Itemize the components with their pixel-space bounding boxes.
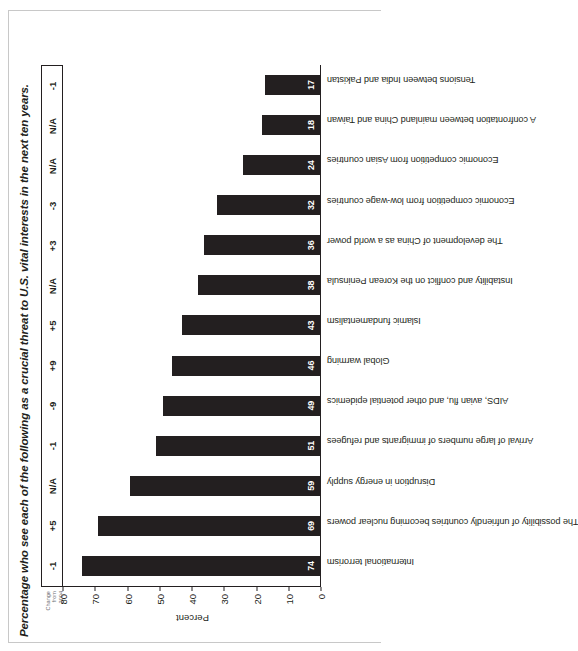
category-label: The possibility of unfriendly countries …: [327, 516, 578, 526]
bar-value-label: 49: [306, 395, 316, 415]
bar-slot: 43: [63, 305, 320, 345]
bar-slot: 36: [63, 225, 320, 265]
bar-slot: 32: [63, 185, 320, 225]
change-value-cell: -3: [42, 186, 62, 226]
category-label: Islamic fundamentalism: [327, 315, 421, 325]
y-axis-title-label: Percent: [175, 613, 208, 624]
axis-tick-mark: [94, 587, 95, 591]
bar-value-label: 38: [306, 275, 316, 295]
bar-value-label: 18: [306, 115, 316, 135]
bar-value-label: 36: [306, 235, 316, 255]
axis-tick-mark: [256, 587, 257, 591]
category-slot: International terrorism: [325, 546, 377, 586]
bar: 18: [262, 115, 320, 135]
bar: 46: [172, 355, 320, 375]
bar: 59: [130, 475, 320, 495]
category-slot: Instability and conflict on the Korean P…: [325, 265, 377, 305]
change-value-cell: N/A: [42, 146, 62, 186]
category-label: Economic competition from low-wage count…: [327, 195, 515, 205]
page-title: Percentage who see each of the following…: [17, 17, 31, 637]
bar-slot: 69: [63, 505, 320, 545]
category-slot: Arrival of large numbers of immigrants a…: [325, 426, 377, 466]
category-slot: Global warming: [325, 346, 377, 386]
bar-slot: 51: [63, 425, 320, 465]
category-label: Disruption in energy supply: [327, 476, 435, 486]
category-label: Economic competition from Asian countrie…: [327, 155, 499, 165]
axis-tick: 0: [315, 587, 326, 599]
category-label: AIDS, avian flu, and other potential epi…: [327, 396, 508, 406]
change-value-cell: +3: [42, 226, 62, 266]
change-value-cell: N/A: [42, 466, 62, 506]
bar-value-label: 46: [306, 355, 316, 375]
axis-tick-label: 0: [315, 594, 326, 599]
bar: 74: [82, 555, 320, 575]
bar-slot: 18: [63, 105, 320, 145]
bar: 69: [98, 515, 320, 535]
change-value-cell: -9: [42, 386, 62, 426]
bar-chart-figure: Percentage who see each of the following…: [9, 9, 381, 643]
bar: 24: [242, 155, 319, 175]
category-slot: The possibility of unfriendly countries …: [325, 506, 377, 546]
change-value-cell: N/A: [42, 266, 62, 306]
bar-slot: 17: [63, 64, 320, 104]
bar: 32: [217, 195, 320, 215]
bar-slot: 24: [63, 145, 320, 185]
change-value-cell: +9: [42, 346, 62, 386]
change-header-line-1: Change: [45, 591, 51, 637]
rotated-stage: Percentage who see each of the following…: [9, 9, 381, 643]
bar-value-label: 69: [306, 515, 316, 535]
change-value-cell: -1: [42, 546, 62, 586]
change-header-line-2: from: [51, 591, 57, 637]
bar-slot: 46: [63, 345, 320, 385]
category-label: The development of China as a world powe…: [327, 235, 503, 245]
bar-value-label: 51: [306, 435, 316, 455]
category-label: Arrival of large numbers of immigrants a…: [327, 436, 533, 446]
category-slot: AIDS, avian flu, and other potential epi…: [325, 386, 377, 426]
category-slot: Tensions between India and Pakistan: [325, 64, 377, 104]
category-labels: International terrorismThe possibility o…: [325, 65, 377, 587]
bar-value-label: 43: [306, 315, 316, 335]
change-value-cell: +5: [42, 306, 62, 346]
change-value-cell: -1: [42, 426, 62, 466]
category-label: Instability and conflict on the Korean P…: [327, 275, 513, 285]
bar: 43: [181, 315, 319, 335]
axis-tick-mark: [223, 587, 224, 591]
plot-area: 74695951494643383632241817: [63, 65, 321, 587]
bar-value-label: 59: [306, 475, 316, 495]
category-slot: Economic competition from low-wage count…: [325, 185, 377, 225]
bar-slot: 38: [63, 265, 320, 305]
bar: 49: [162, 395, 319, 415]
axis-tick-mark: [127, 587, 128, 591]
category-label: Tensions between India and Pakistan: [327, 75, 475, 85]
change-value-cell: +5: [42, 506, 62, 546]
axis-tick-mark: [62, 587, 63, 591]
category-slot: A confrontation between mainland China a…: [325, 105, 377, 145]
bar-value-label: 74: [306, 555, 316, 575]
axis-tick-mark: [320, 587, 321, 591]
category-slot: Economic competition from Asian countrie…: [325, 145, 377, 185]
axis-tick-mark: [191, 587, 192, 591]
change-value-cell: N/A: [42, 106, 62, 146]
bar: 17: [265, 75, 320, 95]
bar-slot: 49: [63, 385, 320, 425]
category-label: A confrontation between mainland China a…: [327, 115, 536, 125]
axis-tick-mark: [288, 587, 289, 591]
axis-tick-mark: [159, 587, 160, 591]
bar: 36: [204, 235, 320, 255]
category-label: Global warming: [327, 356, 389, 366]
bar: 38: [197, 275, 319, 295]
bar-slot: 59: [63, 465, 320, 505]
category-slot: The development of China as a world powe…: [325, 225, 377, 265]
y-axis-title: Percent: [63, 601, 321, 637]
bar-series: 74695951494643383632241817: [63, 65, 320, 586]
change-value-cell: -1: [42, 66, 62, 106]
category-slot: Disruption in energy supply: [325, 466, 377, 506]
bar-value-label: 17: [306, 75, 316, 95]
bar-value-label: 32: [306, 195, 316, 215]
category-label: International terrorism: [327, 556, 414, 566]
category-slot: Islamic fundamentalism: [325, 305, 377, 345]
bar-slot: 74: [63, 545, 320, 585]
bar-value-label: 24: [306, 155, 316, 175]
